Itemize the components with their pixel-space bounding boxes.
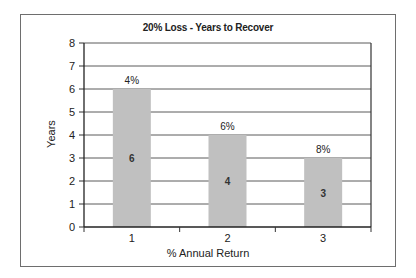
x-tick-label: 1	[129, 232, 135, 244]
plot-area: 0123456784%616%428%33	[0, 0, 416, 278]
y-tick-label: 0	[69, 221, 75, 233]
bar-top-label: 6%	[220, 121, 235, 132]
y-tick-label: 3	[69, 152, 75, 164]
y-tick-label: 1	[69, 198, 75, 210]
y-tick-label: 6	[69, 83, 75, 95]
bar-top-label: 4%	[125, 75, 140, 86]
bar-value-label: 4	[225, 176, 231, 187]
bar-value-label: 3	[320, 188, 326, 199]
x-tick-label: 3	[320, 232, 326, 244]
y-tick-label: 5	[69, 106, 75, 118]
y-tick-label: 8	[69, 37, 75, 49]
y-tick-label: 4	[69, 129, 75, 141]
bar-value-label: 6	[129, 153, 135, 164]
x-tick-label: 2	[224, 232, 230, 244]
y-tick-label: 7	[69, 60, 75, 72]
y-tick-label: 2	[69, 175, 75, 187]
bar-top-label: 8%	[316, 144, 331, 155]
